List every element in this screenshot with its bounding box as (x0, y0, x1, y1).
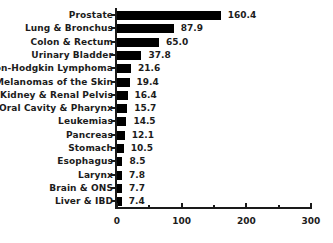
bar-row: Liver & IBD7.4 (0, 194, 333, 209)
bar (117, 144, 124, 153)
bar (117, 131, 125, 140)
x-tick-label: 200 (226, 216, 266, 226)
bar (117, 38, 159, 47)
x-tick-mark (213, 205, 215, 209)
category-tick (111, 107, 116, 109)
x-tick-mark (245, 203, 247, 209)
category-tick (111, 94, 116, 96)
bar (117, 64, 131, 73)
bar (117, 51, 141, 60)
x-tick-label: 100 (162, 216, 202, 226)
category-tick (111, 41, 116, 43)
plot-area: Prostate160.4Lung & Bronchus87.9Colon & … (0, 0, 333, 243)
x-tick-mark (310, 203, 312, 209)
category-tick (111, 120, 116, 122)
bar (117, 78, 130, 87)
category-tick (111, 160, 116, 162)
category-tick (111, 81, 116, 83)
category-tick (111, 147, 116, 149)
category-tick (111, 14, 116, 16)
category-tick (111, 67, 116, 69)
category-tick (111, 134, 116, 136)
x-tick-label: 300 (291, 216, 331, 226)
x-tick-mark (148, 205, 150, 209)
category-tick (111, 174, 116, 176)
x-tick-mark (116, 203, 118, 209)
x-tick-label: 0 (97, 216, 137, 226)
bar (117, 24, 174, 33)
category-tick (111, 200, 116, 202)
category-tick (111, 187, 116, 189)
bar-value-label: 7.4 (129, 194, 145, 209)
bar (117, 104, 127, 113)
bar (117, 117, 126, 126)
bar (117, 184, 122, 193)
bar (117, 157, 122, 166)
bar-chart: Prostate160.4Lung & Bronchus87.9Colon & … (0, 0, 333, 243)
x-tick-mark (278, 205, 280, 209)
category-tick (111, 54, 116, 56)
category-tick (111, 27, 116, 29)
x-tick-mark (181, 203, 183, 209)
category-label: Liver & IBD (0, 194, 113, 209)
bar (117, 171, 122, 180)
bar (117, 11, 221, 20)
bar (117, 91, 128, 100)
